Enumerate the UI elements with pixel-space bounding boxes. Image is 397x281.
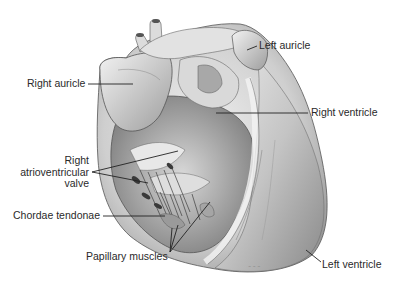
label-right-av-valve: Right atrioventricular valve bbox=[20, 155, 89, 190]
svg-text:~ ~ ~: ~ ~ ~ bbox=[248, 264, 261, 269]
label-left-ventricle: Left ventricle bbox=[322, 259, 382, 271]
label-left-auricle: Left auricle bbox=[259, 40, 310, 52]
heart-illustration: ~ ~ ~ bbox=[0, 0, 397, 281]
label-right-av-valve-line3: valve bbox=[20, 178, 89, 190]
label-right-auricle: Right auricle bbox=[27, 78, 85, 90]
label-papillary-muscles: Papillary muscles bbox=[86, 251, 168, 263]
label-chordae-tendonae: Chordae tendonae bbox=[13, 210, 100, 222]
heart-anatomy-diagram: ~ ~ ~ Right auricle Left auricle Right v… bbox=[0, 0, 397, 281]
label-right-av-valve-line1: Right bbox=[20, 155, 89, 167]
label-right-ventricle: Right ventricle bbox=[311, 107, 378, 119]
